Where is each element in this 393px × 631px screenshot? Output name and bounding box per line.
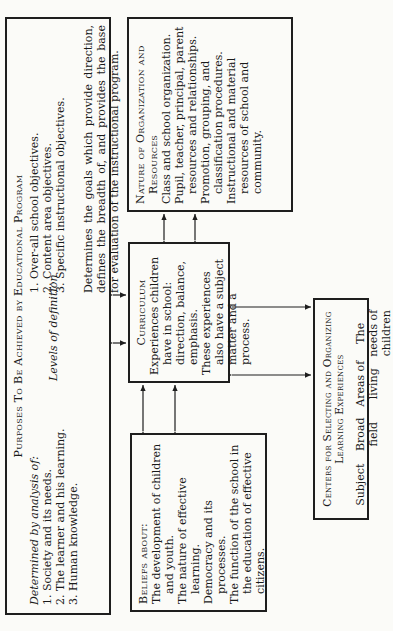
curriculum-box: Curriculum Experiences children have in … — [128, 242, 230, 383]
belief-item: Democracy and its processes. — [202, 441, 228, 604]
determined-item: 2. The learner and his learning. — [54, 428, 67, 605]
belief-item: The development of children and youth. — [150, 441, 176, 604]
nature-title: Nature of Organization and Resources — [134, 25, 160, 204]
level-item: 1. Over-all school objectives. — [28, 97, 41, 293]
centers-title: Centers for Selecting and Organizing Lea… — [321, 308, 345, 510]
belief-item: The function of the school in the educat… — [228, 441, 267, 604]
beliefs-box: Beliefs about: The development of childr… — [130, 433, 267, 612]
beliefs-title: Beliefs about: — [137, 441, 150, 604]
level-item: 2. Content area objectives. — [41, 97, 54, 293]
determined-item: 1. Society and its needs. — [41, 428, 54, 605]
determined-by-label: Determined by analysis of: — [28, 428, 41, 605]
belief-item: The nature of effective learning. — [176, 441, 202, 604]
nature-item: Instructional and material resources of … — [225, 25, 264, 204]
curriculum-item: These experiences also have a subject ma… — [200, 250, 252, 375]
nature-item: Pupil, teacher, principal, parent resour… — [173, 25, 199, 204]
levels-list: 1. Over-all school objectives. 2. Conten… — [28, 97, 67, 293]
nature-of-organization-box: Nature of Organization and Resources Cla… — [127, 17, 293, 212]
centers-box: Centers for Selecting and Organizing Lea… — [313, 298, 369, 520]
purposes-title: Purposes To Be Achieved by Educational P… — [12, 19, 25, 613]
goals-text: Determines the goals which provide direc… — [82, 25, 121, 293]
determined-item: 3. Human knowledge. — [67, 428, 80, 605]
nature-item: Promotion, grouping, and classification … — [199, 25, 225, 204]
centers-columns: Subject Broad field Areas of living The … — [354, 308, 393, 510]
purposes-box: Purposes To Be Achieved by Educational P… — [5, 17, 111, 615]
center-column: Subject — [354, 460, 393, 511]
determined-by-section: Determined by analysis of: 1. Society an… — [28, 428, 80, 605]
center-column: Areas of living — [354, 359, 393, 410]
center-column: The needs of children — [354, 308, 393, 359]
curriculum-title: Curriculum — [135, 250, 148, 375]
nature-item: Class and school organization. — [160, 25, 173, 204]
center-column: Broad field — [354, 409, 393, 460]
level-item: 3. Specific instructional objectives. — [54, 97, 67, 293]
curriculum-item: Experiences children have in school: dir… — [148, 250, 200, 375]
